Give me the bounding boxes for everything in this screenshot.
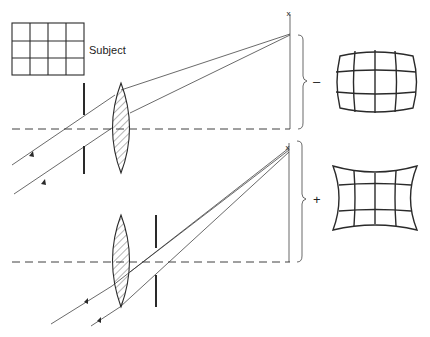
upper-lens <box>113 83 130 173</box>
upper-system: x – <box>12 9 321 194</box>
lower-image-marker: x <box>286 143 290 152</box>
optics-diagram: Subject x – <box>0 0 430 337</box>
lower-system: x + <box>12 141 321 326</box>
subject-label: Subject <box>89 44 126 56</box>
barrel-distortion-grid <box>336 50 417 113</box>
upper-brace <box>298 35 307 129</box>
lower-lens <box>113 215 130 307</box>
lower-sign: + <box>313 192 321 207</box>
subject-grid <box>12 23 84 75</box>
lower-brace <box>297 141 306 262</box>
upper-image-marker: x <box>287 9 291 18</box>
upper-sign: – <box>313 74 321 89</box>
pincushion-distortion-grid <box>333 166 417 230</box>
